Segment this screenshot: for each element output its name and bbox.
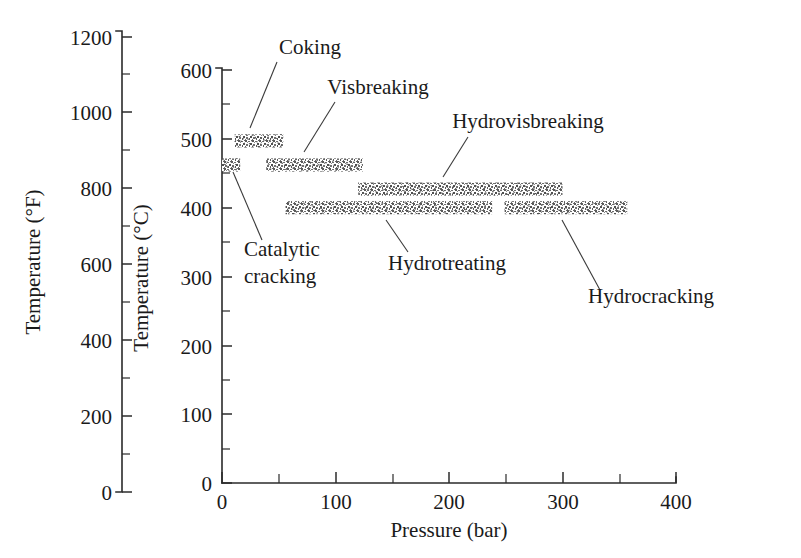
bar-texture-overlay bbox=[222, 158, 240, 171]
process-conditions-chart: 1200 1000 800 600 400 200 0 Temperature … bbox=[0, 0, 801, 558]
f-label-200: 200 bbox=[81, 405, 113, 429]
f-label-1000: 1000 bbox=[70, 101, 112, 125]
p-label-300: 300 bbox=[547, 490, 579, 514]
bar-hydrocracking bbox=[505, 201, 628, 214]
c-label-400: 400 bbox=[181, 197, 213, 221]
bar-texture-overlay bbox=[358, 183, 562, 196]
celsius-axis: 600 500 400 300 200 100 0 Temperature (°… bbox=[129, 59, 232, 496]
c-label-600: 600 bbox=[181, 59, 213, 83]
f-label-600: 600 bbox=[81, 253, 113, 277]
leader-line-hydrocracking bbox=[562, 220, 600, 290]
f-label-1200: 1200 bbox=[70, 26, 112, 50]
data-bars-layer bbox=[222, 134, 627, 214]
c-label-200: 200 bbox=[181, 335, 213, 359]
series-label-visbreaking: Visbreaking bbox=[327, 75, 429, 99]
series-label-catalytic-cracking: Catalytic bbox=[244, 237, 320, 261]
celsius-axis-title: Temperature (°C) bbox=[129, 204, 153, 351]
bar-coking bbox=[234, 134, 283, 147]
fahrenheit-axis: 1200 1000 800 600 400 200 0 Temperature … bbox=[21, 26, 132, 505]
fahrenheit-axis-line bbox=[116, 31, 122, 492]
bar-texture-overlay bbox=[234, 134, 283, 147]
c-label-100: 100 bbox=[181, 403, 213, 427]
bar-visbreaking bbox=[266, 158, 362, 171]
f-label-400: 400 bbox=[81, 329, 113, 353]
p-label-400: 400 bbox=[660, 490, 692, 514]
leader-line-hydrovisbreaking bbox=[443, 137, 468, 177]
figure-container: 1200 1000 800 600 400 200 0 Temperature … bbox=[0, 0, 801, 558]
p-label-0: 0 bbox=[217, 490, 228, 514]
series-label-hydrotreating: Hydrotreating bbox=[388, 251, 506, 275]
leader-line-catalytic-cracking bbox=[233, 172, 262, 240]
bar-hydrovisbreaking bbox=[358, 183, 562, 196]
celsius-axis-line bbox=[216, 68, 222, 483]
series-label-coking: Coking bbox=[279, 35, 341, 59]
series-label-hydrocracking: Hydrocracking bbox=[588, 284, 714, 308]
bar-texture-overlay bbox=[286, 201, 493, 214]
f-label-0: 0 bbox=[102, 481, 113, 505]
bar-texture-overlay bbox=[505, 201, 628, 214]
pressure-axis-title: Pressure (bar) bbox=[390, 518, 507, 542]
leader-line-hydrotreating bbox=[386, 220, 408, 252]
p-label-200: 200 bbox=[433, 490, 465, 514]
c-label-0: 0 bbox=[202, 472, 213, 496]
bar-hydrotreating bbox=[286, 201, 493, 214]
series-label-hydrovisbreaking: Hydrovisbreaking bbox=[452, 109, 604, 133]
bar-texture-overlay bbox=[266, 158, 362, 171]
pressure-axis: 0 100 200 300 400 Pressure (bar) bbox=[217, 472, 692, 542]
leader-line-coking bbox=[250, 62, 277, 128]
bar-catalytic-cracking bbox=[222, 158, 240, 171]
leader-line-visbreaking bbox=[304, 102, 335, 152]
c-label-300: 300 bbox=[181, 266, 213, 290]
c-label-500: 500 bbox=[181, 128, 213, 152]
fahrenheit-axis-title: Temperature (°F) bbox=[21, 189, 45, 334]
p-label-100: 100 bbox=[320, 490, 352, 514]
series-label-catalytic-cracking: cracking bbox=[244, 264, 317, 288]
f-label-800: 800 bbox=[81, 177, 113, 201]
